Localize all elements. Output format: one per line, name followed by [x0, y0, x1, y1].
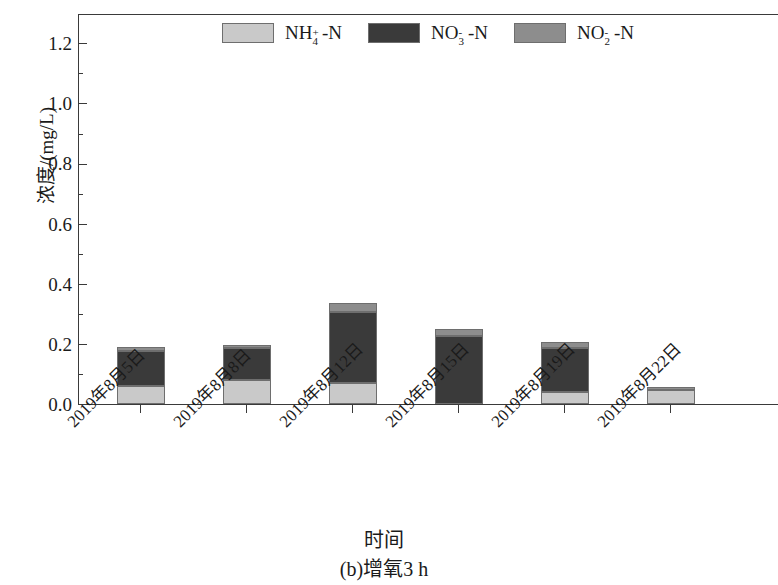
bar-segment	[329, 303, 377, 312]
x-axis-title: 时间	[0, 524, 768, 553]
x-axis-tick	[458, 405, 459, 413]
bar-segment	[647, 387, 695, 390]
legend-entry: NO-2 -N	[514, 22, 634, 44]
y-axis-major-tick	[78, 344, 87, 345]
y-axis-major-tick	[78, 284, 87, 285]
x-axis-tick	[140, 405, 141, 413]
y-axis-minor-tick	[78, 374, 83, 375]
legend-swatch	[368, 23, 420, 43]
y-axis-minor-tick	[78, 134, 83, 135]
legend-entry: NO-3 -N	[368, 22, 488, 44]
bar-segment	[541, 392, 589, 404]
y-axis-minor-tick	[78, 194, 83, 195]
bar-group	[223, 13, 271, 404]
legend-label: NO-2 -N	[577, 22, 634, 44]
chart-legend: NH+4 -NNO-3 -NNO-2 -N	[222, 22, 660, 44]
legend-label: NO-3 -N	[431, 22, 488, 44]
bar-group	[117, 13, 165, 404]
legend-swatch	[514, 23, 566, 43]
bar-segment	[117, 386, 165, 404]
legend-label: NH+4 -N	[285, 22, 342, 44]
bar-segment	[329, 383, 377, 404]
x-axis-tick	[246, 405, 247, 413]
y-axis-tick-label: 0.4	[8, 274, 72, 296]
y-axis-major-tick	[78, 43, 87, 44]
x-axis-tick	[352, 405, 353, 413]
legend-entry: NH+4 -N	[222, 22, 342, 44]
x-axis-tick	[564, 405, 565, 413]
y-axis-minor-tick	[78, 73, 83, 74]
y-axis-major-tick	[78, 224, 87, 225]
y-axis-tick-label: 0.2	[8, 334, 72, 356]
y-axis-title: 浓度/(mg/L)	[31, 36, 58, 276]
x-axis-tick	[670, 405, 671, 413]
legend-swatch	[222, 23, 274, 43]
y-axis-minor-tick	[78, 254, 83, 255]
y-axis-major-tick	[78, 103, 87, 104]
bar-segment	[647, 390, 695, 404]
y-axis-major-tick	[78, 164, 87, 165]
y-axis-minor-tick	[78, 314, 83, 315]
figure-caption: (b)增氧3 h	[0, 553, 768, 582]
bar-segment	[435, 329, 483, 337]
